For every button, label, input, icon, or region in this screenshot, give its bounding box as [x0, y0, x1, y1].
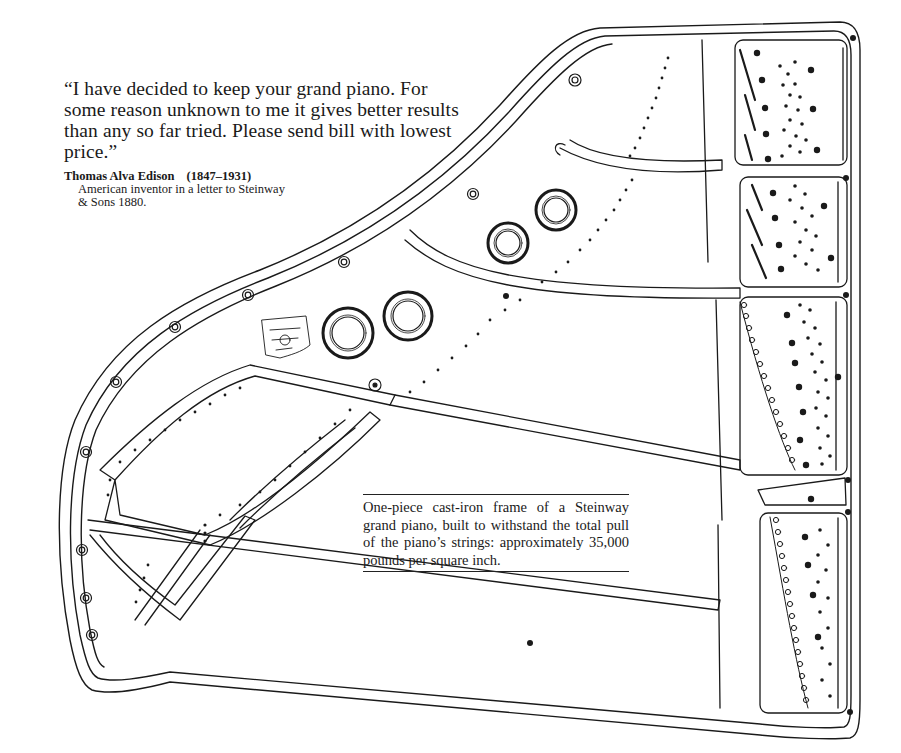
- frame-rosettes: [323, 190, 576, 358]
- illustration-caption: One-piece cast-iron frame of a Steinway …: [363, 494, 629, 572]
- hitch-pin-bars: [740, 50, 766, 278]
- quote-block: “I have decided to keep your grand piano…: [64, 78, 464, 209]
- tuning-pin-compartments: [702, 40, 847, 713]
- quote-author-years: (1847–1931): [186, 169, 251, 183]
- pin-clusters: [778, 60, 832, 698]
- quote-text: “I have decided to keep your grand piano…: [64, 78, 464, 162]
- quote-attribution: Thomas Alva Edison(1847–1931) American i…: [64, 170, 464, 209]
- tuning-pins: [503, 35, 856, 715]
- small-bolt: [369, 379, 381, 391]
- quote-author: Thomas Alva Edison: [64, 169, 174, 183]
- steinway-badge: [262, 316, 310, 358]
- quote-author-description: American inventor in a letter to Steinwa…: [64, 183, 288, 209]
